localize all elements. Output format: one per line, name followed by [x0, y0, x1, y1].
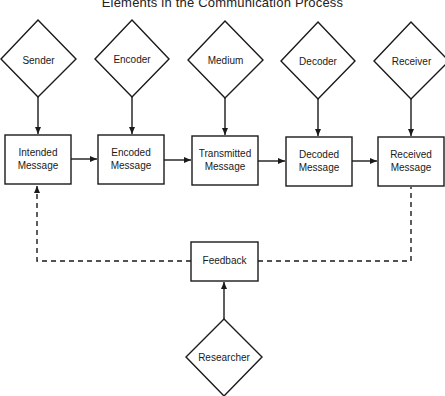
encoded-line2: Message [98, 159, 164, 172]
received-message-label: Received Message [378, 148, 444, 174]
decoder-label: Decoder [281, 55, 355, 68]
transmitted-message-label: Transmitted Message [192, 147, 258, 173]
intended-line2: Message [5, 159, 71, 172]
intended-message-label: Intended Message [5, 146, 71, 172]
transmitted-line2: Message [192, 160, 258, 173]
received-line1: Received [378, 148, 444, 161]
sender-label: Sender [1, 54, 76, 67]
encoded-message-label: Encoded Message [98, 146, 164, 172]
received-line2: Message [378, 161, 444, 174]
encoded-line1: Encoded [98, 146, 164, 159]
encoder-label: Encoder [95, 53, 169, 66]
transmitted-line1: Transmitted [192, 147, 258, 160]
intended-line1: Intended [5, 146, 71, 159]
decoded-message-label: Decoded Message [286, 148, 352, 174]
researcher-label: Researcher [186, 351, 262, 364]
decoded-line2: Message [286, 161, 352, 174]
medium-label: Medium [188, 54, 263, 67]
feedback-label: Feedback [191, 254, 258, 267]
feedback-loop-left [37, 186, 191, 261]
feedback-loop-right [258, 187, 411, 261]
receiver-label: Receiver [374, 55, 445, 68]
decoded-line1: Decoded [286, 148, 352, 161]
